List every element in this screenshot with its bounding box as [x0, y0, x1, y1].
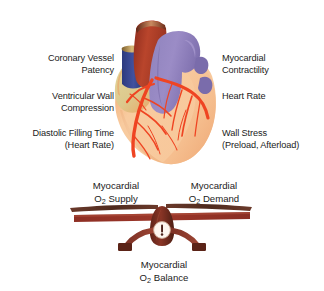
demand-factor-3-line1: Wall Stress	[222, 128, 267, 138]
scale-supply-line1: Myocardial	[93, 180, 139, 191]
supply-factor-1-line2: Patency	[10, 64, 114, 76]
scale-label-balance: Myocardial O2 Balance	[112, 259, 216, 287]
supply-factor-diastolic-filling-time: Diastolic Filling Time (Heart Rate)	[2, 127, 114, 151]
scale-balance-symbol: O	[140, 272, 147, 283]
supply-factor-ventricular-wall-compression: Ventricular Wall Compression	[10, 90, 114, 114]
scale-demand-line1: Myocardial	[191, 180, 237, 191]
demand-factor-3-line2: (Preload, Afterload)	[222, 139, 324, 151]
scale-balance-rest: Balance	[151, 272, 188, 283]
demand-factor-wall-stress: Wall Stress (Preload, Afterload)	[222, 127, 324, 151]
demand-factor-heart-rate: Heart Rate	[222, 90, 322, 102]
supply-factor-2-line2: Compression	[10, 102, 114, 114]
supply-factor-3-line2: (Heart Rate)	[2, 139, 114, 151]
myocardial-oxygen-balance-figure: Coronary Vessel Patency Ventricular Wall…	[0, 0, 324, 291]
demand-factor-myocardial-contractility: Myocardial Contractility	[222, 52, 322, 76]
scale-gauge	[154, 222, 171, 239]
scale-balance-line1: Myocardial	[141, 259, 187, 270]
supply-factor-2-line1: Ventricular Wall	[52, 91, 114, 101]
supply-factor-3-line1: Diastolic Filling Time	[32, 128, 114, 138]
demand-factor-1-line2: Contractility	[222, 64, 322, 76]
demand-factor-1-line1: Myocardial	[222, 53, 265, 63]
supply-factor-1-line1: Coronary Vessel	[48, 53, 114, 63]
demand-factor-2-line1: Heart Rate	[222, 91, 265, 101]
balance-scale-illustration	[62, 196, 262, 258]
supply-factor-coronary-vessel-patency: Coronary Vessel Patency	[10, 52, 114, 76]
heart-illustration	[96, 6, 228, 170]
